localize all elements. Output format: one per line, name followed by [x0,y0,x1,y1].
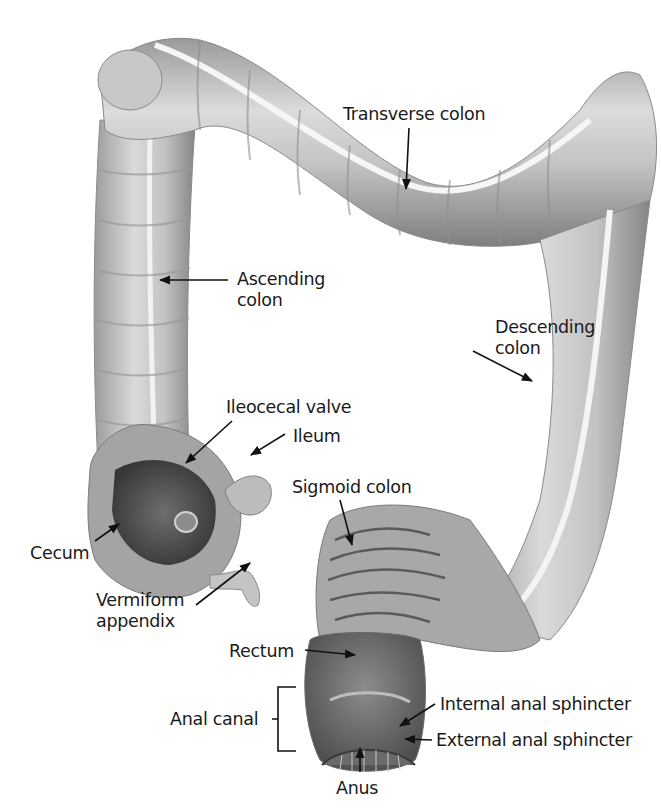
label-ascending-colon-line2: colon [237,289,283,311]
label-cecum: Cecum [30,542,89,564]
label-descending-colon-line2: colon [495,337,541,359]
label-anal-canal: Anal canal [170,708,258,730]
colon-anatomy-diagram: Transverse colon Ascending colon Descend… [0,0,661,811]
label-ileocecal-valve: Ileocecal valve [226,396,351,418]
label-descending-colon-line1: Descending [495,316,595,338]
label-anus: Anus [336,777,378,799]
label-internal-anal-sphincter: Internal anal sphincter [440,693,631,715]
label-ascending-colon-line1: Ascending [237,268,325,290]
cecum-shape [88,424,241,597]
label-vermiform-appendix-line2: appendix [96,610,175,632]
label-external-anal-sphincter: External anal sphincter [436,729,632,751]
label-rectum: Rectum [229,640,294,662]
label-ileum: Ileum [293,425,340,447]
rectum-shape [305,633,426,773]
label-transverse-colon: Transverse colon [343,103,485,125]
label-sigmoid-colon: Sigmoid colon [292,476,411,498]
anal-canal-bracket [272,687,296,751]
label-vermiform-appendix-line1: Vermiform [96,589,184,611]
